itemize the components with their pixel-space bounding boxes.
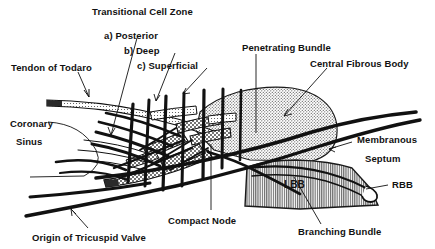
anatomical-diagram	[0, 0, 435, 249]
label-penetrating-bundle: Penetrating Bundle	[242, 43, 331, 53]
branching-bundle-region	[245, 160, 378, 209]
label-lbb: LBB	[284, 180, 305, 190]
label-superficial: c) Superficial	[137, 61, 198, 71]
label-membranous: Membranous	[357, 135, 417, 145]
label-coronary: Coronary	[10, 119, 53, 129]
label-rbb: RBB	[392, 180, 413, 190]
label-septum: Septum	[365, 154, 400, 164]
figure-canvas: Transitional Cell Zone a) Posterior b) D…	[0, 0, 435, 249]
label-sinus: Sinus	[16, 137, 42, 147]
label-branching-bundle: Branching Bundle	[298, 227, 381, 237]
label-transitional-cell-zone: Transitional Cell Zone	[92, 7, 193, 17]
label-compact-node: Compact Node	[168, 216, 236, 226]
label-posterior: a) Posterior	[104, 31, 158, 41]
label-deep: b) Deep	[124, 46, 160, 56]
label-origin-of-tricuspid-valve: Origin of Tricuspid Valve	[32, 233, 146, 243]
label-tendon-of-todaro: Tendon of Todaro	[11, 63, 92, 73]
coronary-sinus-outline	[30, 122, 98, 177]
label-central-fibrous-body: Central Fibrous Body	[310, 59, 409, 69]
